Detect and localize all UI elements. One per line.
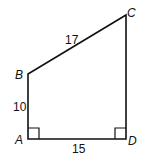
right-angle-marker-A <box>28 128 39 139</box>
vertex-label-D: D <box>128 134 137 148</box>
side-label-AD: 15 <box>72 142 86 156</box>
right-angle-marker-D <box>115 128 126 139</box>
vertex-label-A: A <box>14 133 23 147</box>
side-label-BC: 17 <box>65 33 79 47</box>
vertex-label-C: C <box>127 6 136 20</box>
side-label-AB: 10 <box>13 100 27 114</box>
quadrilateral-diagram: A B C D 17 10 15 <box>0 0 145 160</box>
vertex-label-B: B <box>15 68 23 82</box>
